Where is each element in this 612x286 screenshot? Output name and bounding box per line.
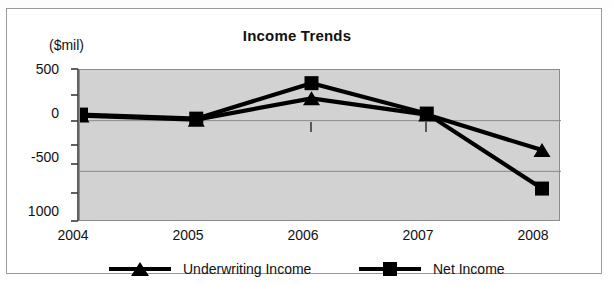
legend-label-underwriting-income: Underwriting Income [183,261,311,277]
square-marker-icon [357,260,423,278]
y-axis-unit-label: ($mil) [49,37,84,53]
plot-area [79,69,560,221]
chart-outer-frame: Income Trends ($mil) 500 0 -500 1000 200… [6,8,602,274]
chart-legend: Underwriting Income Net Income [107,259,537,281]
x-tick-label-2006: 2006 [273,227,333,243]
scan-artifact-strip [0,0,612,7]
series-layer [80,70,561,222]
chart-screenshot: Income Trends ($mil) 500 0 -500 1000 200… [0,0,612,286]
y-tick-label-minus-500: -500 [3,149,59,165]
y-axis [66,65,80,225]
y-tick-label-0: 0 [3,105,59,121]
legend-entry-underwriting-income[interactable]: Underwriting Income [107,259,311,279]
x-tick-label-2004: 2004 [43,227,103,243]
y-tick-label-500: 500 [3,61,59,77]
series-markers-net-income [80,76,549,195]
chart-title: Income Trends [177,27,417,44]
x-tick-label-2007: 2007 [388,227,448,243]
triangle-marker-icon [107,260,173,278]
y-tick-label-minus-1000: 1000 [3,203,59,219]
legend-entry-net-income[interactable]: Net Income [357,259,505,279]
x-tick-label-2008: 2008 [503,227,563,243]
legend-label-net-income: Net Income [433,261,505,277]
x-tick-label-2005: 2005 [158,227,218,243]
